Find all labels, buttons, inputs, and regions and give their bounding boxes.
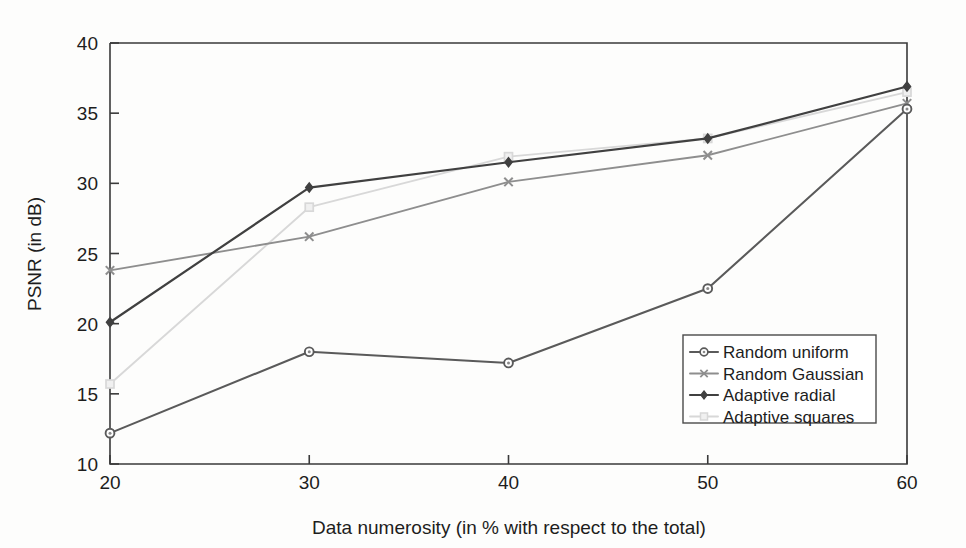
x-tick-label: 20	[99, 472, 120, 493]
legend-entry-label: Random uniform	[723, 343, 849, 362]
y-tick-label: 15	[77, 384, 98, 405]
y-tick-label: 40	[77, 33, 98, 54]
x-tick-label: 30	[299, 472, 320, 493]
data-point-square-marker	[305, 203, 313, 211]
legend-entry-label: Random Gaussian	[723, 365, 864, 384]
data-point-diamond-marker	[106, 318, 113, 327]
series-line	[110, 103, 907, 270]
data-point-circle-marker	[703, 351, 706, 354]
x-tick-label: 50	[697, 472, 718, 493]
chart-legend[interactable]: Random uniformRandom GaussianAdaptive ra…	[683, 335, 876, 427]
legend-entry-label: Adaptive squares	[723, 408, 854, 427]
y-tick-label: 25	[77, 244, 98, 265]
x-axis-title: Data numerosity (in % with respect to th…	[312, 517, 706, 538]
data-point-square-marker	[106, 380, 114, 388]
y-axis-title: PSNR (in dB)	[24, 197, 45, 311]
y-axis-ticks: 10152025303540	[77, 33, 119, 475]
x-tick-label: 40	[498, 472, 519, 493]
chart-figure: 10152025303540 2030405060 Data numerosit…	[0, 0, 966, 548]
x-axis-ticks: 2030405060	[99, 455, 917, 493]
data-point-circle-marker	[906, 107, 909, 110]
y-tick-label: 20	[77, 314, 98, 335]
y-tick-label: 10	[77, 454, 98, 475]
data-point-circle-marker	[109, 432, 112, 435]
data-point-diamond-marker	[306, 183, 313, 192]
data-point-circle-marker	[507, 361, 510, 364]
y-tick-label: 30	[77, 173, 98, 194]
line-chart: 10152025303540 2030405060 Data numerosit…	[0, 0, 966, 548]
series-random-gaussian	[106, 99, 911, 274]
data-point-circle-marker	[308, 350, 311, 353]
x-tick-label: 60	[896, 472, 917, 493]
y-tick-label: 35	[77, 103, 98, 124]
legend-entry-label: Adaptive radial	[723, 386, 835, 405]
series-line	[110, 87, 907, 323]
data-point-square-marker	[700, 413, 707, 420]
data-point-circle-marker	[706, 287, 709, 290]
